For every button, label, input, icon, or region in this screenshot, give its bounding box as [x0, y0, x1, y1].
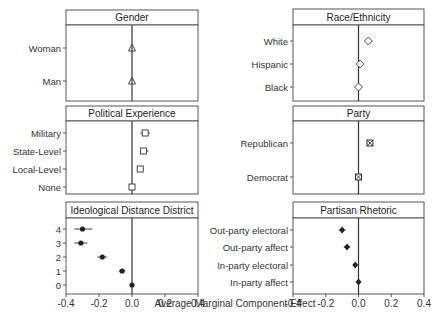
panel-title: Partisan Rhetoric: [320, 205, 397, 216]
level-label: In-party affect: [230, 277, 288, 288]
level-label: 2: [56, 252, 61, 263]
level-label: Republican: [240, 138, 288, 149]
level-label: None: [38, 182, 61, 193]
estimate-point: [137, 166, 143, 172]
estimate-point: [142, 130, 148, 136]
level-label: 3: [56, 238, 61, 249]
estimate-point: [120, 268, 125, 273]
level-label: White: [264, 36, 288, 47]
estimate-point: [80, 226, 85, 231]
level-label: Hispanic: [252, 59, 289, 70]
level-label: Local-Level: [12, 164, 61, 175]
level-label: State-Level: [13, 146, 61, 157]
level-label: Black: [265, 82, 288, 93]
level-label: 4: [56, 224, 61, 235]
panel-title: Political Experience: [88, 108, 176, 119]
level-label: Military: [31, 128, 61, 139]
level-label: 0: [56, 280, 61, 291]
amce-faceted-chart: GenderWomanManRace/EthnicityWhiteHispani…: [0, 0, 438, 329]
level-label: Out-party affect: [223, 242, 289, 253]
level-label: Democrat: [247, 172, 289, 183]
panel-gender: GenderWomanMan: [28, 10, 198, 101]
panel-political-experience: Political ExperienceMilitaryState-LevelL…: [12, 106, 198, 194]
level-label: Man: [43, 76, 61, 87]
x-axis-title: Average Marginal Component Effect: [0, 298, 438, 310]
panel-title: Race/Ethnicity: [327, 12, 391, 23]
panel-race-ethnicity: Race/EthnicityWhiteHispanicBlack: [252, 9, 424, 101]
estimate-point: [100, 254, 105, 259]
estimate-point: [129, 282, 134, 287]
panel-partisan-rhetoric: Partisan RhetoricOut-party electoralOut-…: [210, 202, 432, 309]
panel-title: Ideological Distance District: [71, 205, 194, 216]
panel-party: PartyRepublicanDemocrat: [240, 106, 424, 194]
panel-title: Party: [347, 108, 370, 119]
level-label: In-party electoral: [217, 260, 288, 271]
level-label: Woman: [28, 43, 61, 54]
panel-ideological-distance-district: Ideological Distance District43210-0.4-0…: [56, 202, 206, 309]
estimate-point: [78, 240, 83, 245]
estimate-point: [141, 148, 147, 154]
level-label: 1: [56, 266, 61, 277]
panel-title: Gender: [115, 12, 149, 23]
estimate-point: [129, 184, 135, 190]
level-label: Out-party electoral: [210, 225, 288, 236]
